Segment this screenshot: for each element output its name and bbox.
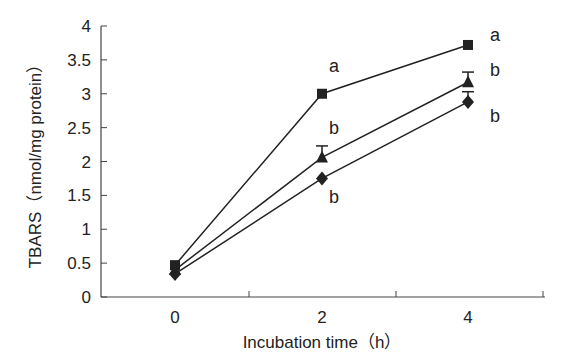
y-tick-label: 4 — [82, 17, 91, 36]
significance-letter: b — [490, 60, 500, 80]
y-axis-label: TBARS（nmol/mg protein） — [26, 56, 45, 269]
x-tick-label: 0 — [170, 308, 179, 327]
y-tick-label: 1 — [82, 220, 91, 239]
x-tick-label: 2 — [317, 308, 326, 327]
plot-area: aabbbb — [169, 25, 501, 281]
y-tick-label: 3.5 — [67, 51, 91, 70]
significance-letter: a — [329, 56, 340, 76]
series-square: aa — [170, 25, 501, 270]
y-tick-label: 3 — [82, 85, 91, 104]
y-tick-label: 0 — [82, 288, 91, 307]
x-axis: 024 — [101, 291, 545, 327]
significance-letter: b — [490, 106, 500, 126]
significance-letter: b — [329, 118, 339, 138]
diamond-marker — [462, 95, 474, 109]
square-marker — [463, 40, 473, 50]
y-axis: 00.511.522.533.54 — [67, 17, 107, 307]
diamond-marker — [316, 171, 328, 185]
y-tick-label: 2 — [82, 153, 91, 172]
y-tick-label: 0.5 — [67, 254, 91, 273]
significance-letter: a — [490, 25, 501, 45]
y-tick-label: 1.5 — [67, 186, 91, 205]
series-line — [175, 102, 468, 274]
triangle-marker — [316, 150, 328, 162]
triangle-marker — [462, 75, 474, 87]
y-tick-label: 2.5 — [67, 119, 91, 138]
significance-letter: b — [329, 187, 339, 207]
square-marker — [317, 89, 327, 99]
series-triangle: bb — [169, 60, 500, 275]
x-tick-label: 4 — [463, 308, 472, 327]
tbars-line-chart: 00.511.522.533.54 024 aabbbb TBARS（nmol/… — [0, 0, 561, 362]
x-axis-label: Incubation time（h） — [243, 333, 402, 352]
